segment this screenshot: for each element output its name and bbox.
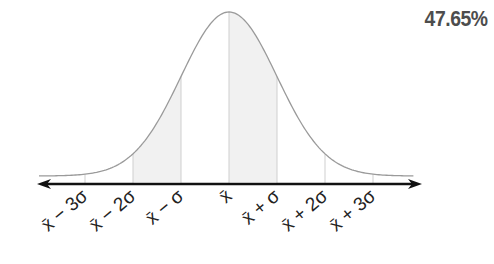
tick-label: x̄ + σ	[237, 185, 284, 229]
shaded-regions	[133, 12, 277, 182]
tick-label: x̄	[215, 185, 236, 208]
tick-label: x̄ − 2σ	[85, 185, 140, 236]
normal-distribution-diagram: x̄ − 3σx̄ − 2σx̄ − σx̄x̄ + σx̄ + 2σx̄ + …	[0, 0, 494, 264]
tick-label: x̄ + 3σ	[325, 185, 380, 236]
bell-curve	[39, 12, 413, 176]
tick-label: x̄ − 3σ	[37, 185, 92, 236]
tick-label: x̄ + 2σ	[277, 185, 332, 236]
bell-curve-figure: x̄ − 3σx̄ − 2σx̄ − σx̄x̄ + σx̄ + 2σx̄ + …	[0, 0, 494, 264]
percentage-label: 47.65%	[425, 6, 488, 32]
shaded-region	[229, 12, 277, 182]
tick-label: x̄ − σ	[141, 185, 188, 229]
tick-labels: x̄ − 3σx̄ − 2σx̄ − σx̄x̄ + σx̄ + 2σx̄ + …	[37, 185, 380, 236]
